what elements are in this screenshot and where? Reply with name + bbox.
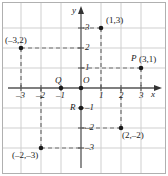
point-R	[79, 106, 84, 111]
coordinate-plane-figure: y x –3 –2 –1 1 2 3 3 2 1 –1 –2 –3 (–3,2)…	[0, 0, 168, 176]
x-tick-label-neg2: –2	[36, 91, 45, 100]
point-neg3-2	[19, 46, 24, 51]
y-axis-label: y	[72, 6, 76, 15]
point-label-1-3: (1,3)	[106, 16, 123, 25]
point-label-2-neg2: (2,–2)	[122, 131, 144, 140]
point-O	[79, 86, 84, 91]
y-tick-label-neg2: –2	[85, 123, 94, 132]
x-tick-label-1: 1	[99, 91, 104, 100]
point-name-P: P	[131, 54, 137, 63]
y-tick-label-neg1: –1	[85, 103, 94, 112]
point-label-neg3-2: (–3,2)	[5, 36, 27, 45]
y-tick-label-1: 1	[85, 63, 90, 72]
point-label-neg2-neg3: (–2,–3)	[12, 151, 38, 160]
x-tick-label-neg1: –1	[56, 91, 65, 100]
point-P	[139, 66, 144, 71]
point-label-P-coords: (3,1)	[139, 55, 156, 64]
point-name-R: R	[70, 103, 76, 112]
y-tick-label-neg3: –3	[85, 143, 94, 152]
y-tick-label-3: 3	[85, 23, 90, 32]
point-name-Q: Q	[55, 76, 62, 85]
point-name-O-origin: O	[83, 76, 90, 85]
x-tick-label-neg3: –3	[16, 91, 25, 100]
point-1-3	[99, 26, 104, 31]
x-axis-label: x	[151, 90, 155, 99]
point-neg2-neg3	[39, 146, 44, 151]
x-tick-label-2: 2	[119, 91, 124, 100]
y-tick-label-2: 2	[85, 43, 90, 52]
x-tick-label-3: 3	[139, 91, 144, 100]
